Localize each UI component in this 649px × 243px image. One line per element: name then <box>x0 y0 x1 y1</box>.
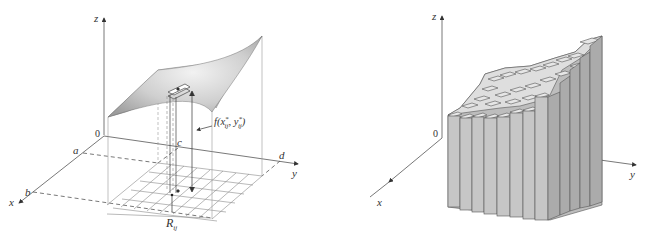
z-axis-label: z <box>431 10 437 22</box>
z-axis: z <box>431 10 442 138</box>
y-axis: y <box>600 160 636 180</box>
x-axis-label: x <box>376 196 382 208</box>
y-axis-label: y <box>629 168 635 180</box>
bound-c-label: c <box>177 136 182 148</box>
x-axis: x <box>370 138 442 208</box>
bound-b-label: b <box>25 186 31 198</box>
origin-label: 0 <box>433 128 438 139</box>
x-axis-label: x <box>8 196 14 208</box>
subrectangle-label: Rij <box>165 216 177 232</box>
left-figure-surface-over-rectangle: z 0 y x a b c d <box>0 0 330 243</box>
right-figure-riemann-boxes: z 0 x y <box>370 0 649 243</box>
subrectangle-pointer <box>171 194 174 212</box>
bound-a-label: a <box>73 144 79 156</box>
surface-f-shape <box>108 36 262 117</box>
volume-boxes <box>448 36 602 220</box>
origin-label: 0 <box>95 128 100 139</box>
x-axis: x <box>8 136 104 208</box>
y-axis-label: y <box>291 167 297 179</box>
z-axis: z <box>93 12 104 135</box>
height-label: f(x*ij, y*ij) <box>214 115 246 130</box>
z-axis-label: z <box>93 12 99 24</box>
y-axis: y <box>104 136 298 179</box>
partition-grid <box>107 163 262 221</box>
bound-d-label: d <box>279 149 285 161</box>
